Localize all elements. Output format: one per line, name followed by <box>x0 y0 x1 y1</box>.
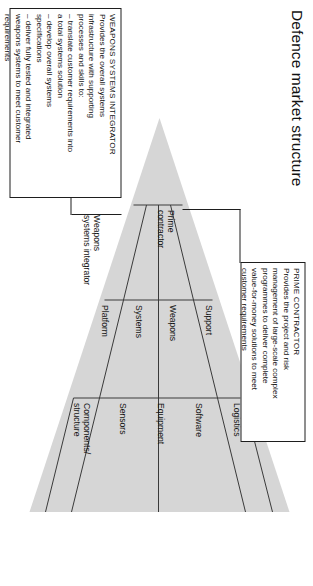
callout-pc-line-4: customer requirements <box>237 268 247 436</box>
callout-pc-line-1: management of large-scale complex <box>269 268 279 436</box>
pyramid-segment-equipment: Equipment <box>155 403 165 444</box>
callout-wsi-line-1: infrastructure with supporting <box>85 14 95 192</box>
pyramid-apex-label: Prime contractor <box>154 210 175 248</box>
pyramid-apex-label-line2: contractor <box>154 210 164 248</box>
callout-wsi-line-2: processes and skills to: <box>74 14 84 192</box>
callout-pc-line-2: programmes to deliver complete <box>258 268 268 436</box>
pyramid-segment-components-line2: structure <box>70 403 80 454</box>
pyramid-mid-label: Weapons systems integrator <box>80 215 101 285</box>
pyramid-segment-components-line1: Components/ <box>81 403 91 454</box>
figure-canvas: Defence market structure <box>0 0 313 586</box>
figure-stage: Defence market structure <box>0 0 313 586</box>
callout-wsi-line-0: Provides the overall systems <box>95 14 105 192</box>
callout-pc-line-3: value-for-money solutions to meet <box>248 268 258 436</box>
callout-prime-contractor: PRIME CONTRACTOR Provides the project an… <box>240 262 305 442</box>
callout-wsi-line-5: – develop overall systems <box>43 14 53 192</box>
callout-wsi-line-6: specifications <box>32 14 42 192</box>
pyramid-segment-weapons: Weapons <box>167 305 177 341</box>
callout-wsi-line-3: – translate customer requirements into <box>64 14 74 192</box>
connector-pc-horizontal <box>239 209 240 263</box>
pyramid-segment-systems: Systems <box>133 305 143 338</box>
callout-wsi-line-4: a total systems solution <box>53 14 63 192</box>
pyramid-mid-label-line1: Weapons <box>91 215 101 285</box>
callout-pc-heading: PRIME CONTRACTOR <box>290 268 300 436</box>
pyramid-segment-sensors: Sensors <box>117 403 127 435</box>
callout-pc-line-0: Provides the project and risk <box>279 268 289 436</box>
pyramid-segment-software: Software <box>193 403 203 437</box>
callout-wsi-line-9: requirements <box>1 14 11 192</box>
connector-wsi-horizontal <box>70 198 71 215</box>
connector-wsi-vertical <box>71 214 121 215</box>
pyramid-mid-label-line2: systems integrator <box>80 215 90 285</box>
connector-pc-vertical <box>182 209 240 210</box>
pyramid-segment-platform: Platform <box>99 305 109 337</box>
pyramid-segment-components: Components/ structure <box>70 403 91 454</box>
pyramid-segment-support: Support <box>203 305 213 335</box>
callout-wsi-line-7: – deliver fully tested and integrated <box>22 14 32 192</box>
callout-wsi-heading: WEAPONS SYSTEMS INTEGRATOR <box>106 14 116 192</box>
pyramid-apex-label-line1: Prime <box>165 210 175 248</box>
callout-wsi-line-8: weapons systems to meet customer <box>11 14 21 192</box>
callout-weapons-systems-integrator: WEAPONS SYSTEMS INTEGRATOR Provides the … <box>9 8 121 198</box>
